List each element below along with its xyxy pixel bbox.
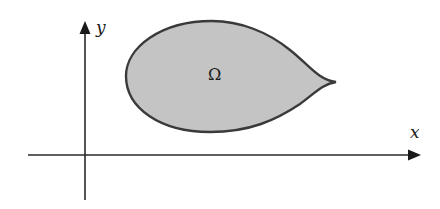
diagram-canvas: Ω x y	[0, 0, 440, 209]
y-axis-arrowhead-icon	[80, 21, 91, 34]
x-axis-arrowhead-icon	[408, 150, 421, 161]
x-axis	[28, 150, 421, 161]
y-axis-label: y	[95, 17, 106, 37]
region-omega	[126, 21, 336, 132]
x-axis-label: x	[410, 122, 420, 142]
region-label: Ω	[208, 65, 221, 84]
y-axis	[80, 21, 91, 200]
